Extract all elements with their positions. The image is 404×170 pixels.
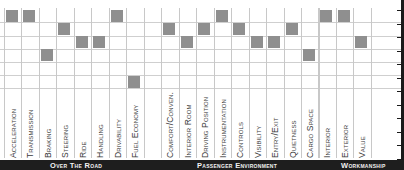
category-label-value: Value (355, 88, 369, 158)
category-label-driving-position: Driving Position (198, 88, 212, 158)
rating-square-drivability (111, 10, 123, 22)
rating-square-ride (76, 36, 88, 48)
edge-tick (397, 78, 401, 79)
section-title-workmanship: Workmanship (341, 160, 386, 170)
edge-tick (397, 24, 401, 25)
rating-square-driving-position (198, 23, 210, 35)
category-label-transmission: Transmission (23, 88, 37, 158)
section-footer: Over The Road Passenger Environment Work… (0, 160, 404, 170)
category-label-interior-room: Interior Room (181, 88, 195, 158)
grid-column-line (39, 8, 40, 158)
grid-column-line (109, 8, 110, 158)
category-label-braking: Braking (41, 88, 55, 158)
rating-square-instrumentation (216, 10, 228, 22)
rating-square-entry-exit (268, 36, 280, 48)
grid-column-line (231, 8, 232, 158)
section-title-over-the-road: Over The Road (50, 160, 102, 170)
edge-tick (397, 10, 401, 11)
rating-square-transmission (23, 10, 35, 22)
category-label-fuel-economy: Fuel Economy (128, 88, 142, 158)
rating-square-controls (233, 23, 245, 35)
grid-column-line (214, 8, 215, 158)
category-label-instrumentation: Instrumentation (216, 88, 230, 158)
rating-square-acceleration (6, 10, 18, 22)
grid-column-line (179, 8, 180, 158)
edge-tick (397, 132, 401, 133)
category-label-steering: Steering (58, 88, 72, 158)
grid-row-line (0, 36, 401, 37)
edge-tick (397, 37, 401, 38)
rating-square-fuel-economy (128, 76, 140, 88)
rating-square-quietness (286, 23, 298, 35)
grid-column-line (56, 8, 57, 158)
section-title-passenger-environment: Passenger Environment (197, 160, 277, 170)
category-label-ride: Ride (76, 88, 90, 158)
rating-chart: AccelerationTransmissionBrakingSteeringR… (0, 0, 404, 170)
grid-column-line (21, 8, 22, 158)
edge-tick (397, 64, 401, 65)
category-label-interior: Interior (320, 88, 334, 158)
grid-column-line (74, 8, 75, 158)
grid-column-line (249, 8, 250, 158)
grid-column-line (126, 8, 127, 158)
grid-column-line (336, 8, 337, 158)
grid-column-line (353, 8, 354, 158)
grid-row-line (0, 49, 401, 50)
rating-square-exterior (338, 10, 350, 22)
category-label-drivability: Drivability (111, 88, 125, 158)
category-label-comfort-conven: Comfort/Conven. (163, 88, 177, 158)
grid-column-line (91, 8, 92, 158)
grid-column-line (144, 8, 145, 158)
category-label-entry-exit: Entry/Exit (268, 88, 282, 158)
category-label-cargo-space: Cargo Space (303, 88, 317, 158)
edge-tick (397, 145, 401, 146)
rating-square-visibility (251, 36, 263, 48)
category-label-visibility: Visibility (251, 88, 265, 158)
edge-tick (397, 118, 401, 119)
rating-square-steering (58, 23, 70, 35)
rating-square-interior (320, 10, 332, 22)
rating-square-interior-room (181, 36, 193, 48)
grid-row-line (0, 75, 401, 76)
category-label-controls: Controls (233, 88, 247, 158)
category-label-exterior: Exterior (338, 88, 352, 158)
rating-square-comfort-conven (163, 23, 175, 35)
grid-column-line (161, 8, 162, 158)
rating-square-handling (93, 36, 105, 48)
grid-column-line (371, 8, 372, 158)
rating-square-value (355, 36, 367, 48)
grid-column-line (196, 8, 197, 158)
category-label-acceleration: Acceleration (6, 88, 20, 158)
category-label-handling: Handling (93, 88, 107, 158)
edge-tick (397, 91, 401, 92)
category-label-quietness: Quietness (286, 88, 300, 158)
grid-column-line (266, 8, 267, 158)
grid-column-line (284, 8, 285, 158)
grid-column-line (301, 8, 302, 158)
grid-column-line (4, 8, 5, 158)
rating-square-cargo-space (303, 49, 315, 61)
rating-square-braking (41, 49, 53, 61)
edge-tick (397, 105, 401, 106)
grid-row-line (0, 62, 401, 63)
edge-tick (397, 51, 401, 52)
